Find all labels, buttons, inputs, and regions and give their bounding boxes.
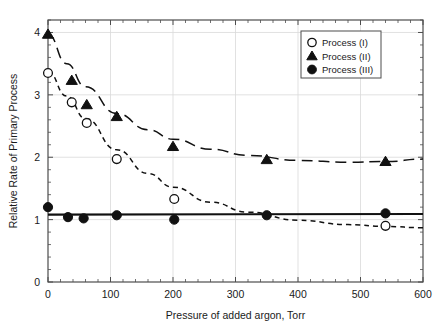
data-point [170, 195, 179, 204]
y-tick-label: 1 [34, 214, 40, 226]
x-tick-label: 400 [289, 288, 307, 300]
x-tick-label: 0 [45, 288, 51, 300]
legend-label: Process (I) [322, 37, 368, 48]
x-tick-label: 300 [227, 288, 245, 300]
data-point [67, 98, 76, 107]
legend: Process (I)Process (II)Process (III) [301, 31, 381, 78]
x-axis-title: Pressure of added argon, Torr [166, 309, 306, 321]
legend-label: Process (II) [322, 51, 371, 62]
y-tick-label: 3 [34, 89, 40, 101]
y-tick-label: 0 [34, 276, 40, 288]
y-tick-label: 4 [34, 26, 40, 38]
data-point [381, 209, 390, 218]
x-tick-label: 200 [164, 288, 182, 300]
y-axis-title: Relative Rate of Primary Process [7, 74, 19, 229]
legend-marker-open-circle [308, 38, 316, 46]
data-point [82, 119, 91, 128]
data-point [170, 215, 179, 224]
data-point [262, 211, 271, 220]
chart-figure: 0100200300400500600 01234 Pressure of ad… [0, 0, 444, 334]
data-point [79, 214, 88, 223]
legend-label: Process (III) [322, 64, 373, 75]
x-tick-label: 600 [414, 288, 432, 300]
data-point [44, 69, 53, 78]
data-point [112, 155, 121, 164]
data-point [381, 221, 390, 230]
data-point [112, 211, 121, 220]
x-tick-label: 100 [102, 288, 120, 300]
data-point [43, 203, 52, 212]
y-tick-label: 2 [34, 151, 40, 163]
x-tick-label: 500 [352, 288, 370, 300]
legend-marker-filled-circle [308, 65, 317, 74]
data-point [63, 213, 72, 222]
